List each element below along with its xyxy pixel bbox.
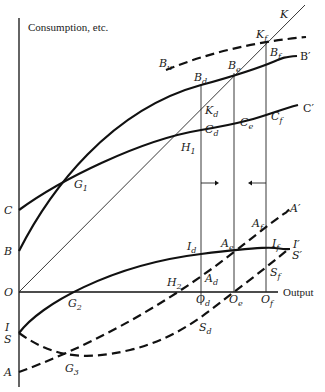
bu-label: Bu <box>158 57 172 72</box>
axis-label-c: C <box>4 204 13 217</box>
point-be: Be <box>227 59 241 74</box>
point-kf: Kf <box>255 28 269 43</box>
axis-label-o: O <box>4 286 13 299</box>
point-bd: Bd <box>193 71 207 86</box>
s-prime-label: S′ <box>292 249 303 262</box>
point-ce: Ce <box>240 116 253 131</box>
x-axis-label: Output <box>283 286 314 298</box>
y-axis-label: Consumption, etc. <box>28 21 109 33</box>
point-sf: Sf <box>270 266 283 281</box>
point-ad: Ad <box>204 272 218 287</box>
axis-label-a: A <box>3 366 12 379</box>
point-h1: H1 <box>180 141 196 156</box>
point-g1: G1 <box>74 178 88 193</box>
point-h2: H2 <box>166 276 182 291</box>
point-ae: Ae <box>220 237 234 252</box>
a-curve <box>19 209 290 372</box>
c-prime-label: C′ <box>303 102 314 115</box>
point-af: Af <box>251 217 265 232</box>
b-prime-label: B′ <box>300 50 311 63</box>
economic-diagram: Consumption, etc. Output K Bu B′ C′ I′ A… <box>0 0 325 392</box>
arrow-left-head-icon <box>248 181 252 186</box>
k-label: K <box>279 8 289 21</box>
point-kd: Kd <box>204 104 218 119</box>
point-bf: Bf <box>269 46 283 61</box>
axis-label-s: S <box>4 333 12 346</box>
point-g3: G3 <box>65 362 79 377</box>
a-prime-label: A′ <box>289 202 301 215</box>
arrow-right-head-icon <box>215 181 219 186</box>
point-id: Id <box>186 240 196 255</box>
point-g2: G2 <box>68 297 82 312</box>
c-curve <box>19 105 298 210</box>
point-of: Of <box>261 293 275 308</box>
i-curve <box>19 248 290 333</box>
s-curve <box>19 248 290 356</box>
point-od: Od <box>196 293 210 308</box>
point-sd: Sd <box>199 321 212 336</box>
axis-label-b: B <box>3 245 12 258</box>
point-oe: Oe <box>229 293 243 308</box>
point-if: If <box>271 237 281 252</box>
point-cd: Cd <box>205 123 219 138</box>
point-cf: Cf <box>271 110 284 125</box>
